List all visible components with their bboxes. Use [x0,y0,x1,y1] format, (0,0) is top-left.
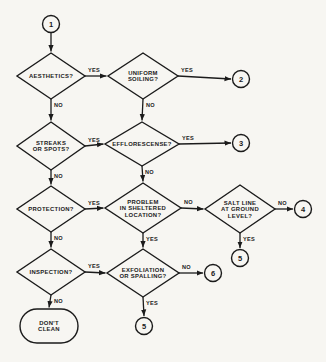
flowchart-svg: YESYESNONOYESYESNONOYESNONOYESYESNOYESNO… [0,0,326,362]
connector-number: 5 [142,322,146,331]
node-label: INSPECTION? [30,269,73,275]
edge-label: YES [181,67,193,73]
edge-streaks-spots--protection: NO [51,170,63,185]
edge-uniform-soiling--efflorescense: NO [142,99,155,121]
connector-out-5a: 5 [232,250,249,267]
edge-efflorescense--problem-sheltered: NO [142,166,154,182]
node-label: PROTECTION? [28,206,74,212]
decision-protection: PROTECTION? [17,186,85,232]
edge-uniform-soiling--out-2: YES [178,67,231,79]
node-label: UNIFORMSOILING? [128,70,158,82]
edge-aesthetics--streaks-spots: NO [51,99,63,121]
edge-label: YES [88,263,100,269]
edge-label: YES [88,200,100,206]
edge-inspection--dont-clean: NO [49,295,63,308]
edge-label: YES [88,137,100,143]
edge-label: NO [54,102,63,108]
decision-aesthetics: AESTHETICS? [17,53,85,99]
edge-problem-sheltered--exfoliation: YES [143,233,158,248]
edge-streaks-spots--efflorescense: YES [85,137,104,146]
node-label: EXFOLIATIONOR SPALLING? [119,267,166,279]
terminal-dont-clean: DON'TCLEAN [20,309,78,343]
edge-aesthetics--uniform-soiling: YES [85,67,107,76]
connector-out-3: 3 [233,135,250,152]
edge-label: NO [182,264,191,270]
connector-start: 1 [43,16,60,33]
edge-label: NO [146,102,155,108]
flowchart-figure: YESYESNONOYESYESNONOYESNONOYESYESNOYESNO… [0,0,326,362]
edge-salt-line--out-5a: YES [240,233,255,248]
edge-label: YES [88,67,100,73]
decision-efflorescense: EFFLORESCENSE? [105,122,179,166]
decision-problem-sheltered: PROBLEMIN SHELTEREDLOCATION? [105,183,181,233]
edge-label: NO [54,235,63,241]
node-label: STREAKSOR SPOTS? [33,140,70,152]
node-label: EFFLORESCENSE? [112,141,172,147]
edge-exfoliation--out-5b: YES [143,297,158,316]
decision-exfoliation: EXFOLIATIONOR SPALLING? [107,249,179,297]
edge-label: YES [146,300,158,306]
edge-label: NO [145,169,154,175]
node-label: AESTHETICS? [29,73,73,79]
connector-out-6: 6 [205,265,222,282]
connector-number: 2 [239,75,243,84]
node-label: DON'TCLEAN [38,320,60,332]
edge-inspection--exfoliation: YES [85,263,106,273]
edge-protection--problem-sheltered: YES [85,200,104,209]
edge-salt-line--out-4: NO [275,200,293,209]
edge-label: YES [243,236,255,242]
connector-number: 1 [49,20,53,29]
edge-protection--inspection: NO [51,232,63,248]
connector-number: 5 [238,254,242,263]
edge-label: NO [278,200,287,206]
edge-label: YES [182,135,194,141]
edge-problem-sheltered--salt-line: NO [181,199,204,209]
edge-exfoliation--out-6: NO [179,264,203,273]
decision-uniform-soiling: UNIFORMSOILING? [108,53,178,99]
decision-inspection: INSPECTION? [17,249,85,295]
edge-label: NO [184,199,193,205]
connector-number: 3 [239,139,243,148]
edge-label: YES [146,236,158,242]
decision-salt-line: SALT LINEAT GROUNDLEVEL? [205,185,275,233]
edge-label: NO [54,173,63,179]
connector-out-2: 2 [233,71,250,88]
edge-label: NO [54,298,63,304]
edge-efflorescense--out-3: YES [179,135,231,144]
connector-out-4: 4 [295,201,312,218]
decision-streaks-spots: STREAKSOR SPOTS? [17,122,85,170]
connector-number: 6 [211,269,215,278]
connector-out-5b: 5 [136,318,153,335]
